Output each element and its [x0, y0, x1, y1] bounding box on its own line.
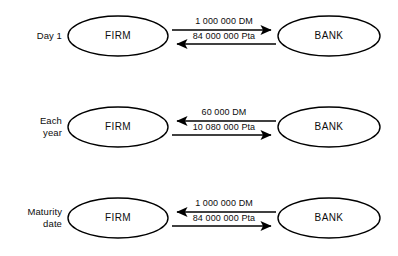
- flow-label-row1-top: 1 000 000 DM: [168, 16, 280, 26]
- flow-label-row2-top: 60 000 DM: [168, 107, 280, 117]
- stage-label-row2-line1: Each: [6, 115, 62, 127]
- node-label-firm-row1: FIRM: [68, 30, 168, 41]
- flow-label-row3-top: 1 000 000 DM: [168, 198, 280, 208]
- node-label-bank-row1: BANK: [278, 30, 380, 41]
- node-label-bank-row2: BANK: [278, 121, 380, 132]
- flow-label-row1-bottom: 84 000 000 Pta: [168, 31, 280, 41]
- stage-label-row3-line1: Maturity: [2, 206, 62, 218]
- stage-label-row3: Maturity date: [2, 206, 62, 229]
- node-label-bank-row3: BANK: [278, 212, 380, 223]
- swap-flow-diagram: Day 1 FIRM BANK 1 000 000 DM 84 000 000 …: [0, 0, 398, 256]
- node-label-firm-row2: FIRM: [68, 121, 168, 132]
- stage-label-row2: Each year: [6, 115, 62, 138]
- flow-label-row3-bottom: 84 000 000 Pta: [168, 213, 280, 223]
- stage-label-row1: Day 1: [6, 30, 62, 42]
- stage-label-row3-line2: date: [2, 218, 62, 230]
- node-label-firm-row3: FIRM: [68, 212, 168, 223]
- flow-label-row2-bottom: 10 080 000 Pta: [168, 122, 280, 132]
- stage-label-row2-line2: year: [6, 127, 62, 139]
- stage-label-row1-line1: Day 1: [37, 30, 62, 41]
